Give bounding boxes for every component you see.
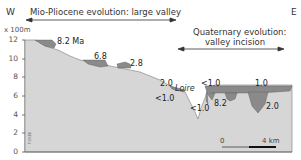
age-label-8-2-east: 8.2 <box>214 100 227 108</box>
age-label-1-0: 1.0 <box>255 80 268 88</box>
mio-pliocene-title: Mio-Pliocene evolution: large valley <box>30 8 181 17</box>
quaternary-title-line2: valley incision <box>205 38 265 47</box>
scale-start-label: 0 <box>220 138 224 145</box>
age-label-8-2-ma: 8.2 Ma <box>57 38 84 46</box>
age-label-2-0-west: 2.0 <box>160 80 173 88</box>
y-axis <box>22 40 25 152</box>
age-label-lt1-channel: <1.0 <box>190 105 209 113</box>
scale-bar <box>222 146 276 148</box>
east-label: E <box>291 8 297 17</box>
figure-code: F1936 <box>28 132 32 144</box>
age-label-lt1-west: <1.0 <box>155 95 174 103</box>
y-tick-6: 6 <box>6 92 18 100</box>
age-label-lt1-terrace: <1.0 <box>201 80 220 88</box>
y-tick-2: 2 <box>6 129 18 137</box>
quaternary-arrow <box>178 47 284 51</box>
west-label: W <box>6 8 15 17</box>
y-tick-12: 12 <box>6 36 18 44</box>
y-tick-10: 10 <box>6 55 18 63</box>
y-tick-8: 8 <box>6 73 18 81</box>
y-axis-unit: x 100m <box>4 27 31 34</box>
river-label-loire: Loire <box>175 85 195 93</box>
y-tick-4: 4 <box>6 111 18 119</box>
quaternary-title-line1: Quaternary evolution: <box>193 28 286 37</box>
scale-end-label: 4 km <box>262 138 280 145</box>
age-label-2-8: 2.8 <box>130 60 143 68</box>
y-tick-0: 0 <box>6 148 18 156</box>
mio-pliocene-arrow <box>26 18 176 22</box>
age-label-2-0-east: 2.0 <box>266 103 279 111</box>
age-label-6-8: 6.8 <box>94 53 107 61</box>
